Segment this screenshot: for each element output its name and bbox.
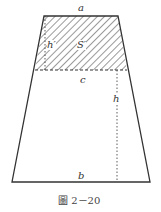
label-a: a [78, 3, 84, 13]
label-s-prime: S′ [77, 40, 86, 50]
label-h: h [113, 94, 119, 104]
label-b: b [78, 171, 84, 181]
label-h-prime: h′ [47, 40, 56, 50]
label-c: c [80, 75, 86, 85]
figure-caption: 圖 2－20 [58, 196, 100, 206]
